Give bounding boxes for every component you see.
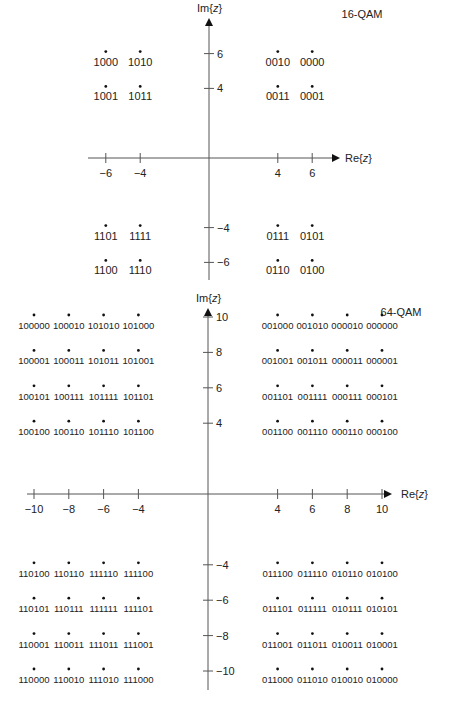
point-label: 011010 [297, 674, 328, 685]
point-dot-icon [276, 314, 279, 317]
point-dot-icon [137, 349, 140, 352]
point-dot-icon [276, 668, 279, 671]
point-label: 000011 [332, 355, 363, 366]
point-label: 001100 [262, 426, 293, 437]
constellation-point: 1011 [128, 85, 152, 102]
x-tick-label: 6 [309, 167, 315, 179]
point-label: 101110 [88, 426, 118, 437]
constellation-point: 1111 [129, 224, 151, 241]
constellation-point: 0100 [300, 259, 324, 276]
constellation-point: 110100 [19, 561, 50, 578]
point-label: 0000 [300, 56, 324, 68]
point-dot-icon [311, 314, 314, 317]
point-dot-icon [311, 224, 314, 227]
constellation-point: 100110 [53, 420, 84, 437]
point-label: 110010 [53, 674, 84, 685]
point-dot-icon [104, 85, 107, 88]
point-dot-icon [276, 259, 279, 262]
constellation-point: 000011 [332, 349, 363, 366]
constellation-point: 111111 [90, 597, 118, 614]
constellation-point: 010101 [366, 597, 398, 614]
constellation-point: 101111 [89, 384, 119, 401]
point-label: 0111 [266, 230, 289, 242]
constellation-point: 101001 [123, 349, 155, 366]
constellation-point: 110111 [54, 597, 84, 614]
point-dot-icon [33, 384, 36, 387]
point-dot-icon [346, 561, 349, 564]
point-dot-icon [381, 314, 384, 317]
point-dot-icon [137, 632, 140, 635]
point-label: 1100 [94, 264, 118, 276]
constellation-point: 011110 [298, 561, 328, 578]
y-tick-label: 6 [216, 382, 222, 394]
point-label: 011101 [262, 603, 292, 614]
x-tick-label: −6 [100, 167, 113, 179]
constellation-point: 100011 [53, 349, 84, 366]
point-label: 111111 [90, 603, 118, 614]
constellation-point: 011100 [262, 561, 292, 578]
constellation-point: 111000 [123, 668, 153, 685]
point-label: 111011 [89, 639, 119, 650]
constellation-point: 100100 [18, 420, 50, 437]
constellation-point: 000111 [332, 384, 362, 401]
point-label: 001010 [297, 320, 329, 331]
point-dot-icon [33, 632, 36, 635]
point-dot-icon [102, 420, 105, 423]
point-dot-icon [311, 420, 314, 423]
point-dot-icon [67, 632, 70, 635]
point-dot-icon [381, 668, 384, 671]
imag-axis-arrow-icon [205, 18, 213, 26]
point-dot-icon [102, 349, 105, 352]
x-tick-label: 4 [275, 503, 281, 515]
point-dot-icon [137, 668, 140, 671]
point-dot-icon [346, 314, 349, 317]
point-label: 000101 [366, 391, 398, 402]
point-label: 1011 [128, 90, 152, 102]
point-dot-icon [276, 561, 279, 564]
point-dot-icon [276, 420, 279, 423]
point-dot-icon [381, 349, 384, 352]
point-dot-icon [102, 314, 105, 317]
point-label: 0011 [266, 90, 290, 102]
point-label: 0001 [300, 90, 324, 102]
point-label: 101010 [88, 320, 120, 331]
point-label: 101101 [123, 391, 154, 402]
point-label: 011000 [262, 674, 293, 685]
imag-axis-label: Im{z} [196, 292, 221, 304]
point-dot-icon [102, 632, 105, 635]
constellation-point: 0110 [266, 259, 290, 276]
constellation-point: 100010 [53, 314, 85, 331]
point-dot-icon [67, 597, 70, 600]
constellation-point: 011010 [297, 668, 328, 685]
point-dot-icon [33, 561, 36, 564]
point-label: 101111 [89, 391, 119, 402]
constellation-16-qam: Re{z}Im{z}16-QAM−6−44664−4−6100010100010… [88, 2, 382, 280]
x-tick-label: −4 [132, 503, 145, 515]
constellation-point: 011101 [262, 597, 292, 614]
constellation-point: 010010 [331, 668, 363, 685]
x-tick-label: 6 [309, 503, 315, 515]
point-label: 110111 [54, 603, 84, 614]
point-dot-icon [67, 384, 70, 387]
constellation-point: 101100 [123, 420, 154, 437]
point-label: 011011 [297, 639, 327, 650]
constellation-point: 010001 [366, 632, 398, 649]
constellation-point: 101000 [123, 314, 155, 331]
constellation-point: 111100 [124, 561, 154, 578]
point-dot-icon [67, 561, 70, 564]
point-label: 100000 [18, 320, 50, 331]
point-label: 101000 [123, 320, 155, 331]
point-dot-icon [276, 597, 279, 600]
point-label: 001110 [297, 426, 327, 437]
point-dot-icon [276, 224, 279, 227]
real-axis-label: Re{z} [345, 152, 372, 164]
point-label: 100101 [18, 391, 50, 402]
point-label: 100011 [53, 355, 84, 366]
y-tick-label: −4 [217, 222, 230, 234]
point-label: 000111 [332, 391, 362, 402]
point-dot-icon [33, 349, 36, 352]
point-label: 101001 [123, 355, 155, 366]
constellation-point: 101011 [88, 349, 119, 366]
point-label: 0010 [266, 56, 290, 68]
real-axis-arrow-icon [384, 490, 392, 498]
